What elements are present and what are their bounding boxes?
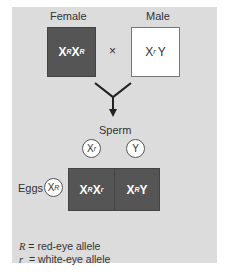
egg-gamete-xR: XR [44,178,63,197]
legend-item-red: R = red-eye allele [19,240,110,253]
offspring-cell-male: XRY [114,168,160,211]
legend-text: = red-eye allele [28,240,100,252]
sperm-gamete-xr: Xr [82,139,101,158]
eggs-label: Eggs [18,182,43,194]
allele-base: Y [132,143,139,154]
allele-base: X [145,45,153,59]
female-label: Female [50,10,87,22]
offspring-cell-female: XRXr [68,168,115,211]
allele-base: Y [158,45,166,59]
allele-base: Y [140,183,148,197]
legend-symbol: R [19,241,25,252]
cross-symbol: × [109,44,116,58]
male-genotype-box: XrY [131,27,180,77]
legend-item-white: r = white-eye allele [19,253,110,266]
allele-base: X [93,183,101,197]
allele-base: X [58,45,66,59]
allele-base: X [72,45,80,59]
female-genotype-box: XRXR [47,27,96,77]
allele-base: X [48,182,55,193]
allele-base: X [87,143,94,154]
sperm-label: Sperm [99,124,131,136]
legend-symbol: r [19,254,23,265]
allele-base: X [80,183,88,197]
sperm-gamete-y: Y [126,139,145,158]
allele-base: X [126,183,134,197]
male-label: Male [146,10,170,22]
legend: R = red-eye allele r = white-eye allele [19,240,110,266]
legend-text: = white-eye allele [29,253,110,265]
merge-arrow-icon [92,78,136,118]
